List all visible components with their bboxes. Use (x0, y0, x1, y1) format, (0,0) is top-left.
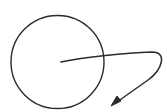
diagram-canvas (0, 0, 167, 112)
arrowhead-icon (111, 96, 121, 106)
diagram-svg (0, 0, 167, 112)
circle-shape (11, 16, 104, 109)
curved-arrow-line (61, 52, 162, 103)
